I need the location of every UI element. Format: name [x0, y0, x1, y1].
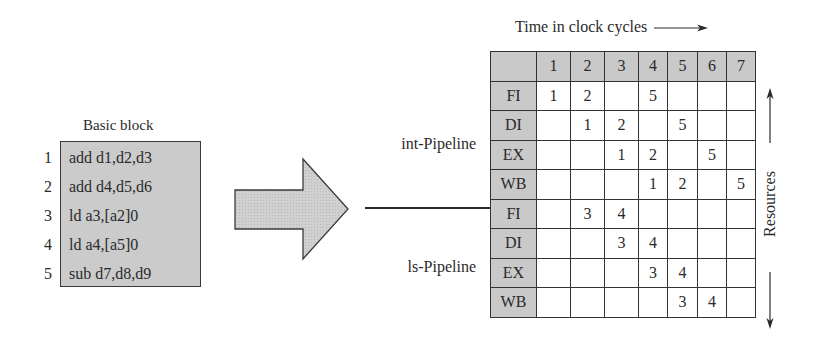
- table-cell: [727, 288, 756, 318]
- instruction-line: sub d7,d8,d9: [69, 259, 200, 288]
- stage-label: FI: [491, 81, 537, 111]
- table-cell: [668, 229, 698, 259]
- table-cell: 4: [605, 199, 639, 229]
- table-cell: [698, 170, 727, 200]
- table-cell: [571, 258, 605, 288]
- header-row: 1 2 3 4 5 6 7: [491, 52, 756, 82]
- table-cell: 1: [537, 81, 571, 111]
- int-pipeline-label: int-Pipeline: [356, 135, 476, 153]
- table-cell: 4: [668, 258, 698, 288]
- table-cell: 1: [605, 140, 639, 170]
- corner-cell: [491, 52, 537, 82]
- table-cell: [727, 258, 756, 288]
- table-row: FI 3 4: [491, 199, 756, 229]
- time-axis-label: Time in clock cycles: [515, 18, 709, 36]
- table-row: EX 3 4: [491, 258, 756, 288]
- instruction-line: ld a3,[a2]0: [69, 201, 200, 230]
- table-cell: 3: [668, 288, 698, 318]
- table-cell: 5: [639, 81, 668, 111]
- instruction-number: 1: [40, 143, 56, 172]
- table-cell: [639, 288, 668, 318]
- stage-label: WB: [491, 170, 537, 200]
- cycle-header: 7: [727, 52, 756, 82]
- basic-block-title: Basic block: [83, 117, 153, 134]
- stage-label: DI: [491, 111, 537, 141]
- table-cell: [537, 288, 571, 318]
- down-arrow-icon: [765, 272, 775, 330]
- instruction-number: 3: [40, 201, 56, 230]
- table-cell: [668, 199, 698, 229]
- table-cell: 2: [668, 170, 698, 200]
- table-cell: [727, 199, 756, 229]
- cycle-header: 3: [605, 52, 639, 82]
- cycle-header: 2: [571, 52, 605, 82]
- table-row: DI 3 4: [491, 229, 756, 259]
- cycle-header: 4: [639, 52, 668, 82]
- table-row: DI 1 2 5: [491, 111, 756, 141]
- table-cell: [698, 81, 727, 111]
- table-cell: [571, 170, 605, 200]
- instruction-line: ld a4,[a5]0: [69, 230, 200, 259]
- table-cell: [605, 170, 639, 200]
- cycle-header: 5: [668, 52, 698, 82]
- table-cell: 3: [639, 258, 668, 288]
- right-arrow-icon: [653, 23, 709, 33]
- table-cell: [727, 81, 756, 111]
- stage-label: EX: [491, 140, 537, 170]
- stage-label: DI: [491, 229, 537, 259]
- pipeline-divider-line: [365, 207, 491, 209]
- table-cell: 3: [605, 229, 639, 259]
- cycle-header: 1: [537, 52, 571, 82]
- instruction-line: add d4,d5,d6: [69, 172, 200, 201]
- table-cell: 5: [698, 140, 727, 170]
- table-cell: [639, 111, 668, 141]
- table-cell: [537, 258, 571, 288]
- basic-block-box: add d1,d2,d3 add d4,d5,d6 ld a3,[a2]0 ld…: [60, 141, 201, 287]
- resources-text: Resources: [761, 171, 779, 237]
- table-cell: [537, 140, 571, 170]
- instruction-line: add d1,d2,d3: [69, 143, 200, 172]
- up-arrow-icon: [765, 88, 775, 144]
- time-axis-text: Time in clock cycles: [515, 18, 647, 35]
- table-cell: 1: [571, 111, 605, 141]
- instruction-numbers: 1 2 3 4 5: [40, 143, 56, 288]
- table-cell: [698, 229, 727, 259]
- instruction-number: 5: [40, 259, 56, 288]
- table-cell: 5: [668, 111, 698, 141]
- table-cell: [537, 170, 571, 200]
- table-cell: [605, 258, 639, 288]
- instruction-number: 4: [40, 230, 56, 259]
- table-cell: 4: [639, 229, 668, 259]
- table-cell: 1: [639, 170, 668, 200]
- stage-label: EX: [491, 258, 537, 288]
- table-cell: [727, 111, 756, 141]
- stage-label: FI: [491, 199, 537, 229]
- resources-axis-label: Resources: [758, 158, 782, 250]
- table-cell: [698, 111, 727, 141]
- table-cell: [727, 140, 756, 170]
- table-cell: [639, 199, 668, 229]
- table-cell: [727, 229, 756, 259]
- table-cell: [537, 199, 571, 229]
- table-cell: [571, 288, 605, 318]
- table-cell: [571, 229, 605, 259]
- table-row: WB 1 2 5: [491, 170, 756, 200]
- table-cell: 3: [571, 199, 605, 229]
- table-row: FI 1 2 5: [491, 81, 756, 111]
- table-cell: 2: [571, 81, 605, 111]
- table-row: EX 1 2 5: [491, 140, 756, 170]
- cycle-header: 6: [698, 52, 727, 82]
- block-right-arrow-icon: [230, 155, 355, 265]
- stage-label: WB: [491, 288, 537, 318]
- ls-pipeline-label: ls-Pipeline: [356, 258, 476, 276]
- table-cell: 2: [605, 111, 639, 141]
- reservation-table: 1 2 3 4 5 6 7 FI 1 2 5 DI 1 2 5 EX 1 2 5: [490, 51, 756, 318]
- table-cell: [537, 229, 571, 259]
- table-cell: [537, 111, 571, 141]
- table-cell: 2: [639, 140, 668, 170]
- table-cell: [698, 199, 727, 229]
- table-cell: [668, 140, 698, 170]
- table-row: WB 3 4: [491, 288, 756, 318]
- table-cell: [571, 140, 605, 170]
- table-cell: 4: [698, 288, 727, 318]
